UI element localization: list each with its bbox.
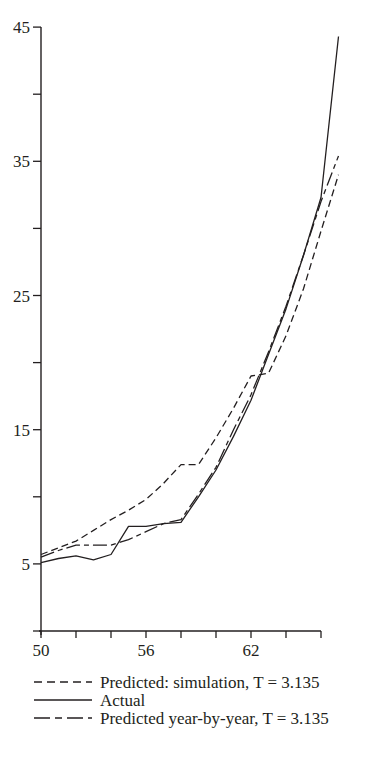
- y-tick-label: 15: [13, 421, 30, 440]
- legend: Predicted: simulation, T = 3.135 Actual …: [32, 673, 329, 727]
- x-tick-label: 50: [33, 641, 50, 660]
- series-dashed-line: [41, 175, 339, 555]
- legend-label: Predicted: simulation, T = 3.135: [100, 674, 320, 691]
- series-lines: [41, 37, 339, 563]
- legend-item-actual: Actual: [32, 691, 329, 709]
- y-tick-label: 45: [13, 18, 30, 37]
- series-solid-line: [41, 37, 339, 563]
- solid-line-swatch-icon: [32, 695, 94, 705]
- y-tick-label: 25: [13, 287, 30, 306]
- dash-dot-line-swatch-icon: [32, 713, 94, 723]
- legend-label: Actual: [100, 692, 145, 709]
- y-tick-label: 35: [13, 152, 30, 171]
- axes: [39, 27, 321, 635]
- legend-item-year-by-year: Predicted year-by-year, T = 3.135: [32, 709, 329, 727]
- line-chart: 515253545505662: [0, 0, 374, 670]
- legend-item-simulation: Predicted: simulation, T = 3.135: [32, 673, 329, 691]
- series-dash-dot-line: [41, 156, 339, 557]
- y-tick-label: 5: [22, 555, 31, 574]
- x-tick-label: 56: [138, 641, 155, 660]
- dashed-line-swatch-icon: [32, 677, 94, 687]
- legend-label: Predicted year-by-year, T = 3.135: [100, 710, 329, 727]
- x-tick-label: 62: [243, 641, 260, 660]
